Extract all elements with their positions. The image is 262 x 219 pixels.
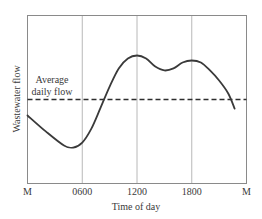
x-tick-label: 1200 [127,186,147,197]
wastewater-flow-curve [28,55,235,147]
x-tick-label: M [23,186,32,197]
x-tick-label: 0600 [72,186,92,197]
x-tick-label: M [242,186,251,197]
annotation-line-1: Average [32,74,73,86]
annotation-line-2: daily flow [32,86,73,98]
x-axis-label: Time of day [112,201,161,212]
y-axis-label: Wastewater flow [11,65,22,132]
average-daily-flow-annotation: Average daily flow [32,74,73,98]
x-tick-label: 1800 [182,186,202,197]
